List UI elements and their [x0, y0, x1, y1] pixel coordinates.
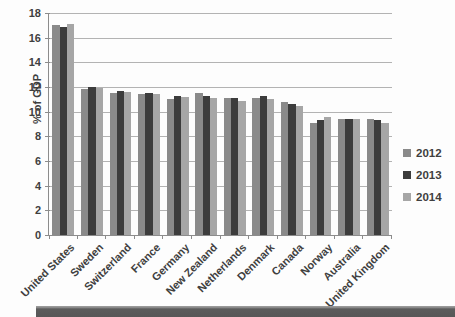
x-axis-tick [220, 235, 221, 239]
legend-swatch-icon [403, 171, 411, 179]
bar-2013-united-kingdom [374, 120, 381, 235]
bar-2014-denmark [267, 99, 274, 235]
bar-2012-united-states [52, 25, 59, 235]
y-tick-label: 16 [7, 33, 41, 44]
gridline [49, 62, 392, 63]
bar-2014-france [153, 94, 160, 235]
bar-2014-norway [324, 117, 331, 235]
x-axis-tick [105, 235, 106, 239]
x-axis-tick [362, 235, 363, 239]
bar-2013-netherlands [231, 98, 238, 235]
x-axis-tick [248, 235, 249, 239]
legend-label: 2013 [416, 169, 442, 181]
bar-2012-new-zealand [195, 93, 202, 235]
y-tick-label: 0 [7, 230, 41, 241]
legend-label: 2014 [416, 191, 442, 203]
gridline [49, 13, 392, 14]
x-axis-tick [77, 235, 78, 239]
legend-item-2014: 2014 [403, 186, 442, 208]
x-axis-tick [162, 235, 163, 239]
legend-item-2013: 2013 [403, 164, 442, 186]
x-axis-tick [334, 235, 335, 239]
bar-2013-canada [288, 104, 295, 235]
y-tick-label: 6 [7, 156, 41, 167]
bar-2013-germany [174, 96, 181, 235]
bottom-divider-band [36, 306, 455, 317]
bar-2012-united-kingdom [367, 119, 374, 235]
bar-2013-denmark [260, 96, 267, 235]
y-tick-label: 4 [7, 181, 41, 192]
bar-2014-germany [181, 97, 188, 235]
bar-2014-new-zealand [210, 98, 217, 235]
bar-2014-canada [296, 106, 303, 236]
y-axis-tick [45, 112, 50, 113]
bar-2012-australia [338, 119, 345, 235]
y-axis-tick [45, 186, 50, 187]
bar-2013-norway [317, 120, 324, 235]
bar-2012-sweden [81, 89, 88, 235]
bar-2014-sweden [96, 88, 103, 235]
legend-label: 2012 [416, 147, 442, 159]
x-axis-tick [305, 235, 306, 239]
bar-chart: % of GDP 024681012141618 United StatesSw… [0, 0, 455, 317]
y-axis-tick [45, 210, 50, 211]
x-axis-tick [391, 235, 392, 239]
legend-swatch-icon [403, 193, 411, 201]
bar-2013-united-states [60, 27, 67, 235]
bar-2012-switzerland [110, 93, 117, 235]
y-tick-label: 10 [7, 107, 41, 118]
x-axis-tick [277, 235, 278, 239]
legend-swatch-icon [403, 149, 411, 157]
y-axis-tick [45, 136, 50, 137]
y-tick-label: 2 [7, 205, 41, 216]
y-axis-tick [45, 161, 50, 162]
y-tick-label: 12 [7, 82, 41, 93]
plot-area [48, 13, 392, 236]
bar-2014-united-kingdom [381, 123, 388, 235]
x-axis-tick [49, 235, 50, 239]
x-axis-tick [134, 235, 135, 239]
y-tick-label: 8 [7, 131, 41, 142]
bar-2013-switzerland [117, 91, 124, 235]
bar-2012-denmark [252, 98, 259, 235]
gridline [49, 38, 392, 39]
bar-2012-canada [281, 102, 288, 235]
bar-2014-australia [353, 119, 360, 235]
y-tick-label: 18 [7, 8, 41, 19]
bar-2012-netherlands [224, 98, 231, 235]
legend-item-2012: 2012 [403, 142, 442, 164]
y-axis-tick [45, 13, 50, 14]
legend: 201220132014 [403, 142, 442, 208]
bar-2012-norway [310, 123, 317, 235]
bar-2013-australia [345, 119, 352, 235]
bar-2014-netherlands [238, 101, 245, 235]
y-axis-tick [45, 38, 50, 39]
bar-2012-germany [167, 99, 174, 235]
bar-2014-switzerland [124, 92, 131, 235]
bar-2013-france [145, 93, 152, 235]
bar-2014-united-states [67, 24, 74, 235]
x-axis-tick [191, 235, 192, 239]
bar-2013-sweden [88, 87, 95, 235]
y-tick-label: 14 [7, 57, 41, 68]
y-axis-tick [45, 87, 50, 88]
bar-2012-france [138, 94, 145, 235]
y-axis-tick [45, 62, 50, 63]
bar-2013-new-zealand [203, 96, 210, 235]
